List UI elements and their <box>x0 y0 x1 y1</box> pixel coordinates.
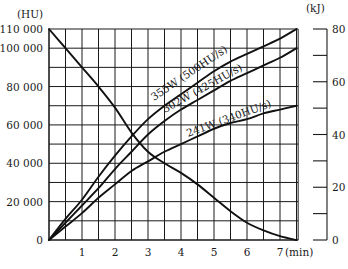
right-axis-unit-label: (kJ) <box>306 2 325 14</box>
x-tick-label: 3 <box>145 246 152 258</box>
y-tick-label: 40 000 <box>6 157 43 169</box>
y-tick-label: 20 000 <box>6 196 43 208</box>
heating-curve-241w <box>49 106 297 240</box>
x-tick-label: 4 <box>178 246 185 258</box>
x-tick-label: 7 <box>277 246 284 258</box>
y-tick-label: 0 <box>36 234 43 246</box>
heat-curve-chart: 020 00040 00060 00080 000100 000110 000 … <box>0 0 348 269</box>
right-tick-label: 60 <box>332 76 345 88</box>
y-tick-label: 100 000 <box>0 42 43 54</box>
x-axis-unit-label: (min) <box>285 246 313 258</box>
right-tick-label: 80 <box>332 23 345 35</box>
right-tick-label: 0 <box>332 234 339 246</box>
y-tick-label: 60 000 <box>6 119 43 131</box>
y-tick-label: 80 000 <box>6 81 43 93</box>
right-tick-label: 20 <box>332 181 345 193</box>
x-tick-label: 6 <box>244 246 251 258</box>
right-y-axis: 020406080 <box>313 23 345 246</box>
x-tick-label: 2 <box>112 246 119 258</box>
x-axis-ticks: 1234567 <box>79 246 284 258</box>
left-axis-unit-label: (HU) <box>17 8 43 20</box>
y-tick-label: 110 000 <box>0 23 43 35</box>
right-tick-label: 40 <box>332 129 345 141</box>
x-tick-label: 1 <box>79 246 86 258</box>
left-y-axis-ticks: 020 00040 00060 00080 000100 000110 000 <box>0 23 43 246</box>
plot-curves <box>49 29 297 240</box>
x-tick-label: 5 <box>211 246 218 258</box>
